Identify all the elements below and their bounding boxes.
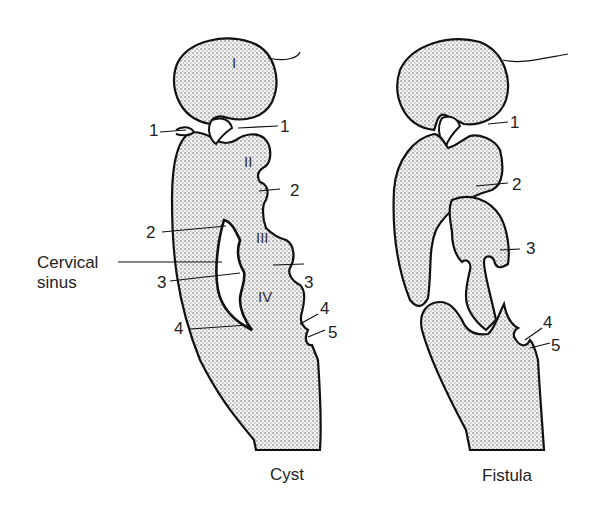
cyst-arch-1: [174, 39, 276, 124]
cyst-right-label-3: 3: [304, 274, 313, 291]
fistula-arch-1: [397, 39, 508, 130]
diagram-canvas: I II III IV 1 2 3 4 1 2 3 4 5 Cervical s…: [0, 0, 598, 516]
cervical-sinus-label-line1: Cervical: [37, 254, 98, 271]
fistula-label-5: 5: [551, 337, 560, 354]
cyst-right-label-2: 2: [290, 182, 299, 199]
fistula-label-4: 4: [543, 314, 552, 331]
fistula-label-3: 3: [526, 240, 535, 257]
cyst-illustration: [118, 39, 325, 450]
fistula-illustration: [394, 39, 568, 450]
fistula-label-2: 2: [512, 176, 521, 193]
fistula-arch-3: [450, 197, 509, 330]
cyst-right-label-4: 4: [320, 300, 329, 317]
cyst-right-label-5: 5: [328, 324, 337, 341]
cyst-left-label-4: 4: [174, 320, 183, 337]
cyst-left-label-2: 2: [146, 224, 155, 241]
cyst-caption: Cyst: [270, 466, 304, 483]
cyst-arch-label-3: III: [256, 230, 269, 245]
fistula-label-1: 1: [510, 114, 519, 131]
fistula-caption: Fistula: [482, 467, 532, 484]
cyst-arch-label-2: II: [244, 154, 252, 169]
cervical-sinus-label-line2: sinus: [37, 274, 77, 291]
cyst-body: [172, 132, 321, 450]
cyst-arch-label-1: I: [232, 55, 236, 70]
cyst-arch-label-4: IV: [258, 289, 272, 304]
cyst-left-label-1: 1: [149, 122, 158, 139]
cyst-left-label-3: 3: [157, 274, 166, 291]
cyst-right-label-1: 1: [280, 118, 289, 135]
